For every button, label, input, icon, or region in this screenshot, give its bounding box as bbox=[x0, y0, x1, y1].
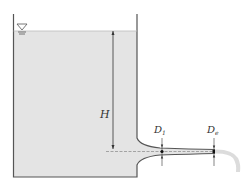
head-label: H bbox=[99, 108, 110, 121]
throat-diameter-label: D1 bbox=[153, 124, 166, 136]
water-jet bbox=[215, 149, 240, 172]
tank-nozzle-diagram: H D1 De bbox=[0, 0, 247, 193]
exit-diameter-label: De bbox=[206, 124, 219, 136]
tank-wall-upper bbox=[137, 14, 215, 150]
tank-water bbox=[14, 31, 216, 177]
throat-diameter-marker bbox=[160, 138, 163, 166]
